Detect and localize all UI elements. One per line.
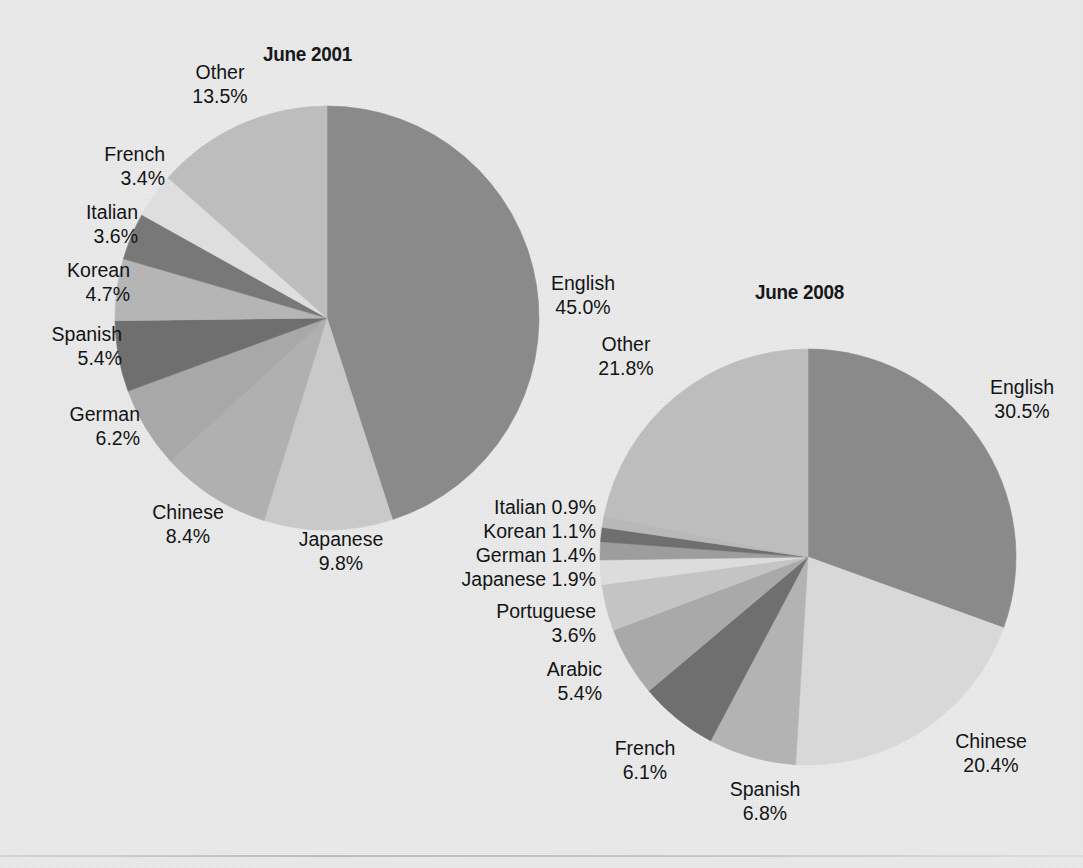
slice-label-japanese-2008: Japanese 1.9%: [400, 567, 596, 591]
slice-label-other-2008: Other 21.8%: [570, 332, 682, 380]
slice-label-spanish-2001-name: Spanish: [0, 322, 122, 346]
slice-label-chinese-2008-value: 20.4%: [932, 753, 1050, 777]
slice-label-other-2001-value: 13.5%: [160, 84, 280, 108]
slice-label-italian-2001-value: 3.6%: [10, 224, 138, 248]
slice-label-french-2001-value: 3.4%: [20, 166, 165, 190]
slice-label-french-2001-name: French: [20, 142, 165, 166]
pie-chart-june-2001: [114, 105, 540, 531]
slice-label-french-2008: French 6.1%: [596, 736, 694, 784]
slice-label-spanish-2001: Spanish 5.4%: [0, 322, 122, 370]
slice-label-spanish-2001-value: 5.4%: [0, 346, 122, 370]
slice-label-korean-2001: Korean 4.7%: [0, 258, 130, 306]
slice-label-japanese-2008-text: Japanese 1.9%: [400, 567, 596, 591]
slice-label-english-2008: English 30.5%: [966, 375, 1078, 423]
slice-label-arabic-2008-name: Arabic: [450, 657, 602, 681]
slice-label-chinese-2001-name: Chinese: [128, 500, 248, 524]
slice-label-spanish-2008-value: 6.8%: [710, 801, 820, 825]
slice-label-arabic-2008: Arabic 5.4%: [450, 657, 602, 705]
slice-label-english-2008-value: 30.5%: [966, 399, 1078, 423]
slice-label-portuguese-2008-name: Portuguese: [420, 599, 596, 623]
slice-label-french-2008-name: French: [596, 736, 694, 760]
slice-label-english-2001-value: 45.0%: [528, 295, 638, 319]
slice-label-korean-2008-text: Korean 1.1%: [400, 519, 596, 543]
slice-label-english-2001: English 45.0%: [528, 271, 638, 319]
pie-chart-june-2008: [599, 348, 1017, 766]
slice-label-portuguese-2008: Portuguese 3.6%: [420, 599, 596, 647]
slice-label-english-2008-name: English: [966, 375, 1078, 399]
slice-label-other-2001: Other 13.5%: [160, 60, 280, 108]
slice-label-other-2008-value: 21.8%: [570, 356, 682, 380]
slice-label-italian-2001-name: Italian: [10, 200, 138, 224]
slice-label-arabic-2008-value: 5.4%: [450, 681, 602, 705]
slice-label-french-2008-value: 6.1%: [596, 760, 694, 784]
slice-label-german-2001-value: 6.2%: [10, 426, 140, 450]
figure-canvas: June 2001 Other 13.5% French 3.4% Italia…: [0, 0, 1083, 868]
bottom-rule: [0, 855, 1083, 857]
slice-label-japanese-2001-value: 9.8%: [277, 551, 405, 575]
slice-label-french-2001: French 3.4%: [20, 142, 165, 190]
slice-label-chinese-2008: Chinese 20.4%: [932, 729, 1050, 777]
slice-label-italian-2008: Italian 0.9%: [400, 495, 596, 519]
slice-label-korean-2001-value: 4.7%: [0, 282, 130, 306]
slice-label-german-2001: German 6.2%: [10, 402, 140, 450]
slice-label-other-2008-name: Other: [570, 332, 682, 356]
slice-label-japanese-2001: Japanese 9.8%: [277, 527, 405, 575]
chart-title-june-2008: June 2008: [755, 280, 844, 304]
slice-label-english-2001-name: English: [528, 271, 638, 295]
slice-label-japanese-2001-name: Japanese: [277, 527, 405, 551]
slice-label-korean-2008: Korean 1.1%: [400, 519, 596, 543]
slice-label-italian-2008-text: Italian 0.9%: [400, 495, 596, 519]
slice-label-german-2001-name: German: [10, 402, 140, 426]
slice-label-korean-2001-name: Korean: [0, 258, 130, 282]
slice-label-chinese-2001: Chinese 8.4%: [128, 500, 248, 548]
slice-label-italian-2001: Italian 3.6%: [10, 200, 138, 248]
slice-label-german-2008-text: German 1.4%: [400, 543, 596, 567]
slice-label-german-2008: German 1.4%: [400, 543, 596, 567]
slice-label-chinese-2001-value: 8.4%: [128, 524, 248, 548]
slice-label-spanish-2008-name: Spanish: [710, 777, 820, 801]
slice-label-portuguese-2008-value: 3.6%: [420, 623, 596, 647]
slice-label-spanish-2008: Spanish 6.8%: [710, 777, 820, 825]
slice-label-other-2001-name: Other: [160, 60, 280, 84]
slice-label-chinese-2008-name: Chinese: [932, 729, 1050, 753]
